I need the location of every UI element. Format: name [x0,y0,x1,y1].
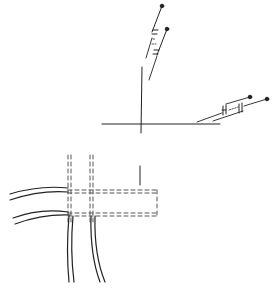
patent-figure [0,0,276,290]
figure-caption [0,284,276,290]
top-probe [146,4,169,80]
dashed-frame [68,155,157,222]
cables [10,187,105,282]
diagram-drawing [0,0,276,290]
right-probe [197,95,269,122]
vertical-line [141,67,142,133]
